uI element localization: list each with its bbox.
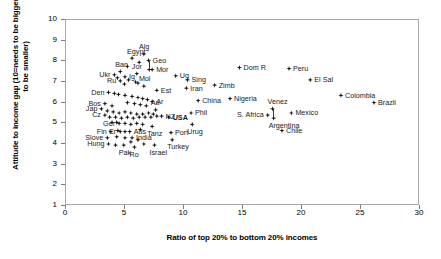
diamond-marker-icon [102,112,107,117]
diamond-marker-icon [138,102,143,107]
diamond-marker-icon [129,94,134,99]
diamond-marker-icon [122,74,127,79]
x-tick-label: 30 [407,209,431,217]
data-point-label: Israel [150,149,168,156]
diamond-marker-icon [129,135,134,140]
x-tick-label: 20 [289,209,313,217]
data-point-label: Ban [115,61,128,68]
y-tick-label: 9 [37,36,57,44]
data-point-label: Ger [103,120,115,127]
diamond-marker-icon [166,115,171,120]
diamond-marker-icon [188,110,193,115]
diamond-marker-icon [117,121,122,126]
diamond-marker-icon [129,56,134,61]
diamond-marker-icon [118,129,123,134]
diamond-marker-icon [153,107,158,112]
y-tick-label: 8 [37,56,57,64]
leader-line-venez [273,109,274,117]
data-point-label: Mexico [295,109,318,116]
plot-area: EgyptAlgGeoMorBanUkrIgJorRuUgSingDom RPe… [65,19,419,205]
diamond-marker-icon [265,112,270,117]
x-tick-mark [124,205,125,209]
x-tick-mark [65,205,66,209]
data-point-label: Iran [190,85,202,92]
diamond-marker-icon [106,141,111,146]
data-point-label: Hung [87,140,104,147]
x-tick-label: 15 [230,209,254,217]
diamond-marker-icon [109,103,114,108]
diamond-marker-icon [113,142,118,147]
diamond-marker-icon [150,67,155,72]
diamond-marker-icon [159,114,164,119]
data-point-label: El Sal [314,76,333,83]
y-tick-label: 5 [37,118,57,126]
data-point-label: Urug [187,128,203,135]
diamond-marker-icon [122,121,127,126]
data-point-label: Mol [139,75,151,82]
diamond-marker-icon [148,115,153,120]
y-tick-label: 2 [37,180,57,188]
leader-line-geo [149,60,150,69]
diamond-marker-icon [116,92,121,97]
diamond-marker-icon [308,77,313,82]
diamond-marker-icon [118,78,123,83]
diamond-marker-icon [286,66,291,71]
y-tick-label: 7 [37,77,57,85]
diamond-marker-icon [371,100,376,105]
diamond-marker-icon [237,65,242,70]
diamond-marker-icon [152,142,157,147]
data-point-label: Jor [132,63,142,70]
diamond-marker-icon [196,98,201,103]
data-point-label: Dom R [243,64,265,71]
diamond-marker-icon [338,93,343,98]
diamond-marker-icon [105,135,110,140]
diamond-marker-icon [132,145,137,150]
data-point-label: China [202,97,221,104]
data-point-label: USA [173,114,188,121]
data-point-label: Port [175,129,188,136]
x-axis-label: Ratio of top 20% to bottom 20% incomes [65,233,419,242]
data-point-label: Ru [107,77,116,84]
y-tick-label: 6 [37,98,57,106]
x-tick-mark [419,205,420,209]
scatter-chart: Attitude to income gap (10=needs to be b… [0,0,441,259]
diamond-marker-icon [132,101,137,106]
diamond-marker-icon [121,142,126,147]
diamond-marker-icon [122,93,127,98]
diamond-marker-icon [168,130,173,135]
data-point-label: Ro [129,151,138,158]
diamond-marker-icon [289,110,294,115]
diamond-marker-icon [141,84,146,89]
data-point-label: Den [91,89,104,96]
data-point-label: Venez [268,98,288,105]
x-tick-mark [183,205,184,209]
data-point-label: Turkey [167,143,189,150]
data-point-label: Peru [293,65,308,72]
y-tick-label: 3 [37,160,57,168]
data-point-label: Colombia [345,92,375,99]
data-point-label: Au [151,99,160,106]
diamond-marker-icon [173,73,178,78]
diamond-marker-icon [128,122,133,127]
x-tick-label: 10 [171,209,195,217]
diamond-marker-icon [122,135,127,140]
y-tick-label: 1 [37,201,57,209]
diamond-marker-icon [127,129,132,134]
x-tick-mark [301,205,302,209]
data-point-label: Nigeria [234,95,257,102]
y-axis-label: Attitude to income gap (10=needs to be b… [11,0,30,172]
diamond-marker-icon [279,128,284,133]
diamond-marker-icon [125,100,130,105]
diamond-marker-icon [154,88,159,93]
x-tick-mark [242,205,243,209]
data-point-label: Phil [195,109,207,116]
data-point-label: Mor [156,66,168,73]
diamond-marker-icon [137,115,142,120]
data-point-label: Zimb [219,82,235,89]
diamond-marker-icon [106,90,111,95]
x-tick-label: 0 [53,209,77,217]
data-point-label: Chile [286,127,302,134]
data-point-label: Alg [139,43,149,50]
data-point-label: S. Africa [237,111,264,118]
data-point-label: Est [161,87,171,94]
